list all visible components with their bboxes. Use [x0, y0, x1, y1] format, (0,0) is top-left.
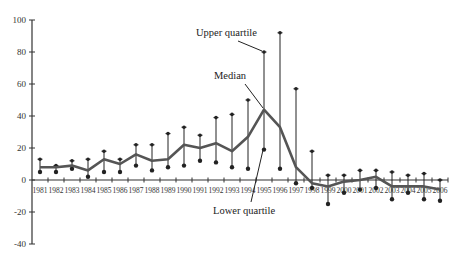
lower-quartile-marker [166, 165, 170, 169]
upper-quartile-marker [214, 116, 218, 120]
x-tick-label: 1991 [193, 186, 208, 195]
lower-quartile-marker [246, 167, 250, 171]
lower-quartile-marker [406, 191, 410, 195]
lower-quartile-marker [374, 186, 378, 190]
x-tick-label: 1996 [273, 186, 288, 195]
upper-quartile-marker [198, 133, 202, 137]
y-tick-label: 20 [17, 143, 27, 153]
lower-quartile-marker [230, 165, 234, 169]
annotation-upper-pointer [238, 41, 262, 51]
lower-quartile-marker [326, 202, 330, 206]
upper-quartile-marker [230, 113, 234, 117]
upper-quartile-marker [358, 169, 362, 173]
y-tick-label: 0 [22, 175, 27, 185]
lower-quartile-marker [278, 167, 282, 171]
lower-quartile-marker [134, 163, 138, 167]
annotation-upper-quartile: Upper quartile [196, 27, 257, 38]
y-tick-label: 80 [17, 47, 27, 57]
upper-quartile-marker [246, 98, 250, 102]
upper-quartile-marker [278, 31, 282, 35]
x-axis: 1981198219831984198519861987198819891990… [32, 178, 448, 196]
upper-quartile-marker [310, 149, 314, 153]
upper-quartile-marker [374, 169, 378, 173]
lower-quartile-marker [118, 170, 122, 174]
x-tick-label: 1986 [113, 186, 128, 195]
lower-quartile-marker [86, 175, 90, 179]
x-tick-label: 1989 [161, 186, 176, 195]
x-tick-label: 1992 [209, 186, 224, 195]
x-tick-label: 1981 [33, 186, 48, 195]
x-tick-label: 1987 [129, 186, 144, 195]
upper-quartile-marker [86, 157, 90, 161]
upper-quartile-marker [406, 173, 410, 177]
upper-quartile-marker [102, 149, 106, 153]
upper-quartile-marker [326, 173, 330, 177]
lower-quartile-marker [310, 186, 314, 190]
x-tick-label: 1990 [177, 186, 192, 195]
lower-quartile-marker [150, 168, 154, 172]
x-tick-label: 1982 [49, 186, 64, 195]
upper-quartile-marker [294, 87, 298, 91]
upper-quartile-marker [262, 50, 266, 54]
y-tick-label: -40 [14, 239, 26, 249]
upper-quartile-marker [342, 173, 346, 177]
upper-quartile-marker [438, 178, 442, 182]
upper-quartile-marker [134, 143, 138, 147]
lower-quartile-marker [38, 170, 42, 174]
lower-quartile-marker [342, 191, 346, 195]
x-tick-label: 1997 [289, 186, 304, 195]
quartile-chart: 100806040200-20-40 198119821983198419851… [0, 0, 462, 259]
upper-quartile-marker [422, 172, 426, 176]
annotation-lower-quartile: Lower quartile [213, 205, 275, 216]
lower-quartile-marker [438, 199, 442, 203]
y-axis: 100806040200-20-40 [13, 15, 36, 249]
lower-quartile-marker [214, 160, 218, 164]
upper-quartile-marker [182, 125, 186, 129]
y-tick-label: 40 [17, 111, 27, 121]
lower-quartile-marker [198, 159, 202, 163]
upper-quartile-marker [166, 132, 170, 136]
lower-quartile-marker [294, 181, 298, 185]
x-tick-label: 1984 [81, 186, 96, 195]
lower-quartile-marker [102, 170, 106, 174]
upper-quartile-marker [118, 157, 122, 161]
lower-quartile-marker [390, 197, 394, 201]
x-tick-label: 1995 [257, 186, 272, 195]
x-tick-label: 1983 [65, 186, 80, 195]
y-tick-label: 100 [13, 15, 27, 25]
upper-quartile-marker [38, 157, 42, 161]
lower-quartile-marker [422, 197, 426, 201]
annotation-median: Median [214, 70, 247, 81]
upper-quartile-marker [150, 143, 154, 147]
lower-quartile-marker [182, 163, 186, 167]
lower-quartile-marker [54, 170, 58, 174]
x-tick-label: 1985 [97, 186, 112, 195]
y-tick-label: -20 [14, 207, 26, 217]
y-tick-label: 60 [17, 79, 27, 89]
upper-quartile-marker [70, 159, 74, 163]
x-tick-label: 1993 [225, 186, 240, 195]
x-tick-label: 1988 [145, 186, 160, 195]
lower-quartile-marker [358, 187, 362, 191]
upper-quartile-marker [390, 170, 394, 174]
